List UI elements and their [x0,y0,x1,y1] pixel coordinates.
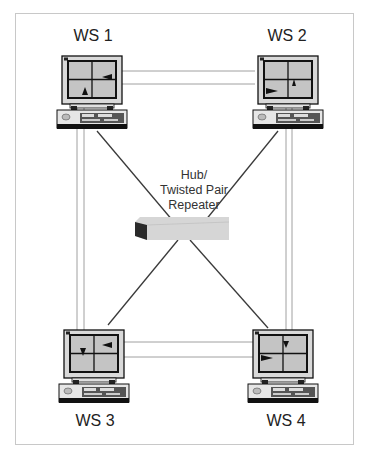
hub-label-line-3: Repeater [150,198,238,213]
workstation-ws3 [59,330,129,403]
ws1-label: WS 1 [68,27,118,45]
hub-label-line-1: Hub/ [150,168,238,183]
workstation-ws4 [248,330,318,403]
ws4-label: WS 4 [261,412,311,430]
hub-label-line-2: Twisted Pair [150,183,238,198]
hub-device [135,217,229,240]
network-diagram [0,0,367,454]
ws3-label: WS 3 [70,412,120,430]
workstation-ws1 [57,56,127,129]
workstation-ws2 [253,56,323,129]
hub-label: Hub/ Twisted Pair Repeater [150,168,238,213]
ws2-label: WS 2 [262,27,312,45]
